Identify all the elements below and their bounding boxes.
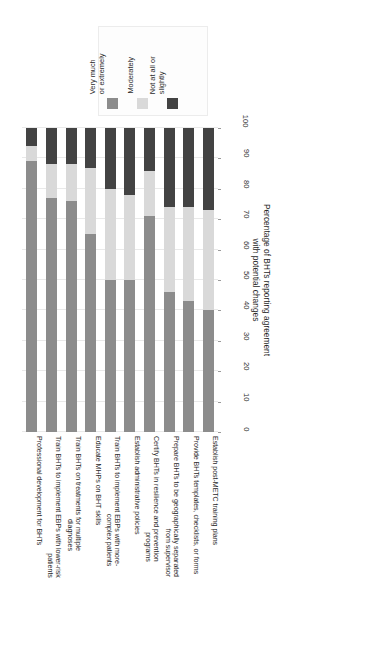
bar-segment bbox=[85, 234, 96, 432]
chart-legend: Very muchor extremelyModeratelyNot at al… bbox=[98, 26, 208, 116]
category-label-line: Train BHTs to implement EBPs with more- bbox=[113, 436, 121, 566]
category-label-line: Prepare BHTs to be geographically separa… bbox=[172, 436, 180, 577]
bar-segment bbox=[66, 128, 77, 164]
category-label-line: from supervisor bbox=[163, 436, 171, 577]
bar-segment bbox=[85, 128, 96, 168]
bar-segment bbox=[124, 280, 135, 432]
bar-segment bbox=[164, 207, 175, 292]
value-tick-mark bbox=[218, 219, 221, 220]
value-axis-title-line: with potential changes bbox=[250, 165, 261, 395]
bar-segment bbox=[105, 189, 116, 280]
category-label: Provide BHTs templates, checklists, or f… bbox=[191, 436, 199, 574]
category-label: Train BHTs to implement EBPs with lower-… bbox=[46, 436, 63, 578]
value-tick-mark bbox=[218, 371, 221, 372]
bar-segment bbox=[26, 146, 37, 161]
value-tick-mark bbox=[218, 432, 221, 433]
bar-segment bbox=[183, 207, 194, 301]
category-label: Educate MHPs on BHT skills bbox=[93, 436, 101, 525]
value-tick-mark bbox=[218, 128, 221, 129]
bar-segment bbox=[183, 301, 194, 432]
value-axis: 0102030405060708090100 bbox=[218, 128, 252, 432]
category-label-line: Certify BHTs in resilience and preventio… bbox=[152, 436, 160, 562]
value-axis-title-text: Percentage of BHTs reporting agreementwi… bbox=[250, 165, 272, 395]
bar-segment bbox=[203, 210, 214, 310]
legend-swatch-not-at-all bbox=[167, 98, 178, 109]
category-label-line: Provide BHTs templates, checklists, or f… bbox=[191, 436, 199, 574]
value-tick-mark bbox=[218, 280, 221, 281]
bar-segment bbox=[46, 164, 57, 197]
category-label: Establish post-METC training plans bbox=[211, 436, 219, 545]
value-tick-mark bbox=[218, 402, 221, 403]
category-label-line: patients bbox=[46, 436, 54, 578]
value-axis-title: Percentage of BHTs reporting agreementwi… bbox=[248, 128, 274, 432]
legend-label-line: Moderately bbox=[127, 57, 136, 94]
bar-segment bbox=[144, 128, 155, 171]
bar-segment bbox=[66, 164, 77, 200]
category-label-line: Train BHTs on treatments for multiple bbox=[74, 436, 82, 551]
chart-figure: Very muchor extremelyModeratelyNot at al… bbox=[0, 0, 373, 670]
stacked-bar bbox=[66, 128, 77, 432]
value-tick-mark bbox=[218, 250, 221, 251]
value-tick-mark bbox=[218, 341, 221, 342]
bar-segment bbox=[203, 310, 214, 432]
bar-segment bbox=[164, 128, 175, 207]
stacked-bar bbox=[26, 128, 37, 432]
category-label-line: programs bbox=[144, 436, 152, 562]
category-label-line: diagnoses bbox=[65, 436, 73, 551]
category-label-line: Professional development for BHTs bbox=[34, 436, 42, 545]
value-tick-mark bbox=[218, 189, 221, 190]
stacked-bar bbox=[164, 128, 175, 432]
legend-label-line: slightly bbox=[157, 56, 166, 94]
category-label: Certify BHTs in resilience and preventio… bbox=[144, 436, 161, 562]
category-label: Train BHTs on treatments for multipledia… bbox=[65, 436, 82, 551]
stacked-bar bbox=[85, 128, 96, 432]
bar-segment bbox=[144, 171, 155, 217]
bar-segment bbox=[105, 128, 116, 189]
category-label-line: complex patients bbox=[104, 436, 112, 566]
category-label: Train BHTs to implement EBPs with more-c… bbox=[104, 436, 121, 566]
bar-segment bbox=[164, 292, 175, 432]
category-label: Professional development for BHTs bbox=[34, 436, 42, 545]
bar-segment bbox=[46, 198, 57, 432]
category-axis-labels: Professional development for BHTsTrain B… bbox=[22, 436, 218, 656]
bar-segment bbox=[144, 216, 155, 432]
value-axis-title-line: Percentage of BHTs reporting agreement bbox=[261, 165, 272, 395]
bar-segment bbox=[26, 161, 37, 432]
legend-swatch-very-much bbox=[107, 98, 118, 109]
category-label: Establish administrative policies bbox=[132, 436, 140, 535]
value-tick-label: 100 bbox=[242, 115, 251, 128]
category-label-line: Establish administrative policies bbox=[132, 436, 140, 535]
legend-swatch-moderately bbox=[137, 98, 148, 109]
value-tick-mark bbox=[218, 158, 221, 159]
plot-area bbox=[22, 128, 218, 432]
bar-segment bbox=[124, 128, 135, 195]
value-tick-mark bbox=[218, 310, 221, 311]
category-label: Prepare BHTs to be geographically separa… bbox=[163, 436, 180, 577]
stacked-bar bbox=[203, 128, 214, 432]
bar-segment bbox=[203, 128, 214, 210]
category-label-line: Establish post-METC training plans bbox=[211, 436, 219, 545]
legend-label-line: or extremely bbox=[97, 53, 106, 94]
bar-segment bbox=[124, 195, 135, 280]
stacked-bar bbox=[144, 128, 155, 432]
category-label-line: Educate MHPs on BHT skills bbox=[93, 436, 101, 525]
legend-label: Moderately bbox=[127, 57, 136, 94]
legend-label: Not at all orslightly bbox=[149, 56, 166, 94]
bar-segment bbox=[105, 280, 116, 432]
bar-segment bbox=[66, 201, 77, 432]
bar-segment bbox=[26, 128, 37, 146]
stacked-bar bbox=[105, 128, 116, 432]
stacked-bar bbox=[46, 128, 57, 432]
stacked-bar bbox=[183, 128, 194, 432]
stacked-bar bbox=[124, 128, 135, 432]
legend-label: Very muchor extremely bbox=[89, 53, 106, 94]
category-label-line: Train BHTs to implement EBPs with lower-… bbox=[54, 436, 62, 578]
bar-segment bbox=[183, 128, 194, 207]
bar-segment bbox=[46, 128, 57, 164]
bar-segment bbox=[85, 168, 96, 235]
